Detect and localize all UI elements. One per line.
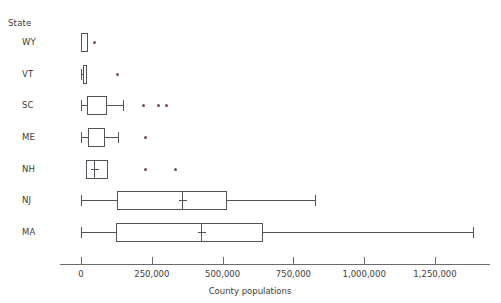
box-rect: [81, 33, 88, 52]
box-rect: [83, 65, 87, 84]
x-axis-tick-label: 1,000,000: [343, 270, 386, 279]
x-axis-title: County populations: [209, 287, 292, 296]
box-rect: [88, 128, 105, 147]
whisker-high-cap: [118, 132, 119, 143]
boxplot-chart: State WYVTSCMENHNJMA 0250,000500,000750,…: [0, 0, 501, 303]
x-axis-tick: [223, 257, 224, 264]
whisker-high-line: [107, 105, 123, 106]
box-rect: [87, 96, 107, 115]
box-rect: [116, 223, 263, 242]
whisker-low-line: [81, 232, 116, 233]
whisker-high-line: [227, 200, 315, 201]
category-label-ma: MA: [22, 228, 36, 237]
whisker-high-cap: [123, 100, 124, 111]
category-label-me: ME: [22, 133, 35, 142]
whisker-high-cap: [315, 195, 316, 206]
outlier-point: [93, 41, 96, 44]
x-axis-tick-label: 0: [78, 270, 83, 279]
whisker-low-cap: [81, 195, 82, 206]
x-axis-line: [60, 264, 490, 265]
whisker-low-line: [81, 137, 88, 138]
x-axis-tick: [435, 257, 436, 264]
x-axis-tick: [293, 257, 294, 264]
whisker-low-cap: [81, 69, 82, 80]
whisker-high-cap: [473, 227, 474, 238]
outlier-point: [142, 104, 145, 107]
x-axis-tick: [364, 257, 365, 264]
outlier-point: [144, 136, 147, 139]
outlier-point: [174, 168, 177, 171]
x-axis-tick-label: 250,000: [134, 270, 169, 279]
mean-marker: [198, 232, 206, 233]
x-axis-tick-label: 500,000: [205, 270, 240, 279]
mean-marker: [91, 169, 99, 170]
mean-marker: [179, 200, 187, 201]
outlier-point: [165, 104, 168, 107]
whisker-low-line: [81, 200, 117, 201]
category-label-vt: VT: [22, 70, 33, 79]
whisker-low-cap: [81, 227, 82, 238]
whisker-low-cap: [81, 100, 82, 111]
category-label-sc: SC: [22, 101, 34, 110]
x-axis-tick: [81, 257, 82, 264]
category-label-wy: WY: [22, 38, 36, 47]
whisker-low-cap: [81, 132, 82, 143]
outlier-point: [157, 104, 160, 107]
outlier-point: [116, 73, 119, 76]
category-label-nh: NH: [22, 165, 35, 174]
x-axis-tick-label: 750,000: [276, 270, 311, 279]
outlier-point: [144, 168, 147, 171]
x-axis-tick-label: 1,250,000: [413, 270, 456, 279]
category-label-nj: NJ: [22, 196, 31, 205]
whisker-high-line: [105, 137, 118, 138]
category-axis-header: State: [8, 19, 32, 28]
x-axis-tick: [152, 257, 153, 264]
whisker-high-line: [263, 232, 473, 233]
box-rect: [117, 191, 227, 210]
